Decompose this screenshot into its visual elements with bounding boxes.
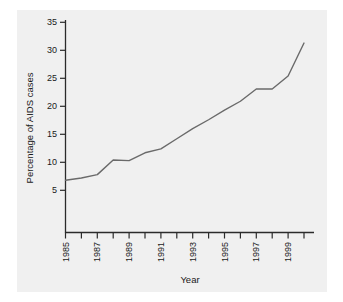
x-axis-tick-labels: 1985 1987 1989 1991 1993 1995 1997 1999	[61, 242, 294, 262]
x-tick-label: 1991	[156, 242, 166, 262]
y-tick-label: 30	[47, 45, 57, 55]
x-tick-label: 1999	[283, 242, 293, 262]
y-axis-ticks	[60, 22, 66, 190]
x-tick-label: 1989	[124, 242, 134, 262]
y-tick-label: 5	[52, 185, 57, 195]
x-tick-label: 1985	[61, 242, 71, 262]
line-chart[interactable]: 5 10 15 20 25 30 35	[0, 0, 343, 302]
x-tick-label: 1987	[92, 242, 102, 262]
y-tick-label: 20	[47, 101, 57, 111]
y-axis-tick-labels: 5 10 15 20 25 30 35	[47, 17, 57, 195]
x-tick-label: 1995	[220, 242, 230, 262]
x-axis-ticks	[66, 233, 305, 239]
x-tick-label: 1993	[188, 242, 198, 262]
y-axis-title: Percentage of AIDS cases	[24, 72, 35, 183]
y-tick-label: 15	[47, 129, 57, 139]
data-series-line[interactable]	[66, 43, 305, 180]
y-tick-label: 10	[47, 157, 57, 167]
x-tick-label: 1997	[251, 242, 261, 262]
x-axis-title: Year	[180, 274, 199, 285]
y-tick-label: 25	[47, 73, 57, 83]
chart-figure: 5 10 15 20 25 30 35	[0, 0, 343, 302]
y-tick-label: 35	[47, 17, 57, 27]
